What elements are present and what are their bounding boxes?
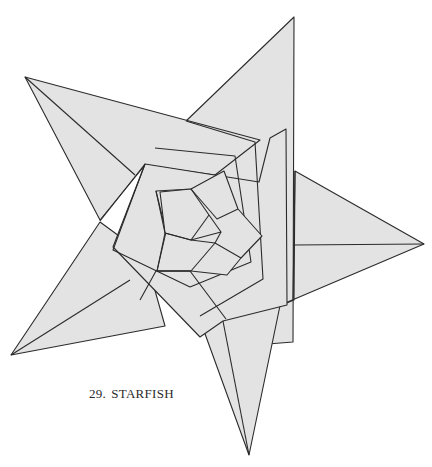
starfish-diagram bbox=[0, 0, 432, 467]
figure-caption: 29.STARFISH bbox=[89, 386, 174, 402]
figure: 29.STARFISH bbox=[0, 0, 432, 467]
figure-title: STARFISH bbox=[111, 386, 174, 401]
figure-number: 29. bbox=[89, 386, 106, 401]
